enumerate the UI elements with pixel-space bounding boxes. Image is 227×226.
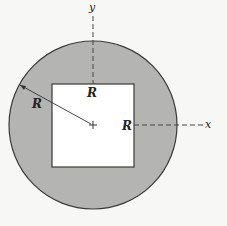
- square-right-label: R: [121, 119, 132, 133]
- y-axis-label: y: [88, 1, 96, 14]
- square-top-label: R: [86, 86, 97, 100]
- diagram-canvas: y x R R R: [0, 0, 227, 226]
- radius-label: R: [31, 97, 42, 111]
- x-axis-label: x: [205, 118, 212, 131]
